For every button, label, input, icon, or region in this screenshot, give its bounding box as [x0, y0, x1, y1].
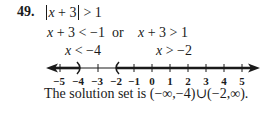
solution-set: (−∞,−4)∪(−2,∞). [150, 86, 249, 101]
solution-statement: The solution set is (−∞,−4)∪(−2,∞). [44, 87, 248, 101]
